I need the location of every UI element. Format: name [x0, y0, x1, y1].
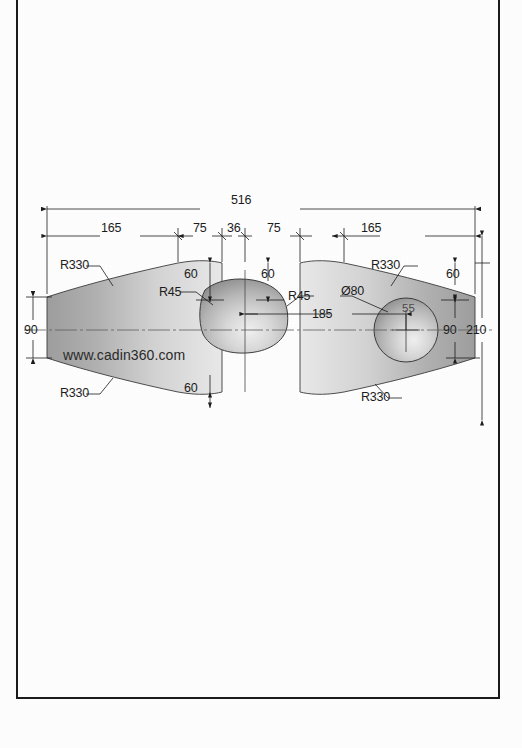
radius-r330-top-right: R330 — [371, 258, 400, 272]
dim-chain-36-center: 36 — [227, 221, 241, 235]
radius-r330-top-left: R330 — [60, 258, 89, 272]
dim-chain-75-right: 75 — [267, 221, 281, 235]
radius-r330-bottom-left: R330 — [60, 386, 89, 400]
drawing-page: 516 165 75 36 75 165 60 60 60 60 90 90 2… — [0, 0, 522, 748]
radius-r330-bottom-right: R330 — [361, 390, 390, 404]
dim-chain-165-right: 165 — [361, 221, 381, 235]
dim-hole-diameter: Ø80 — [341, 284, 364, 298]
dim-sphere-note: 55 — [402, 302, 415, 314]
cad-drawing-canvas — [0, 0, 522, 748]
dim-height-left: 90 — [24, 323, 38, 337]
part-geometry — [24, 261, 492, 395]
dim-offset-top-right: 60 — [446, 267, 460, 281]
dim-height-right: 90 — [443, 323, 457, 337]
dim-overall-height: 210 — [466, 323, 486, 337]
radius-r45-right: R45 — [288, 289, 310, 303]
dim-chain-165-left: 165 — [101, 221, 121, 235]
dim-center-distance: 185 — [312, 307, 332, 321]
dim-chain-75-left: 75 — [193, 221, 207, 235]
dim-offset-bottom: 60 — [184, 381, 198, 395]
central-oblong-shape — [200, 279, 288, 353]
watermark-text: www.cadin360.com — [63, 347, 185, 363]
dim-overall-length: 516 — [231, 193, 251, 207]
radius-r45-left: R45 — [159, 285, 181, 299]
dim-offset-top-mid: 60 — [261, 267, 275, 281]
dim-offset-top-left: 60 — [184, 267, 198, 281]
